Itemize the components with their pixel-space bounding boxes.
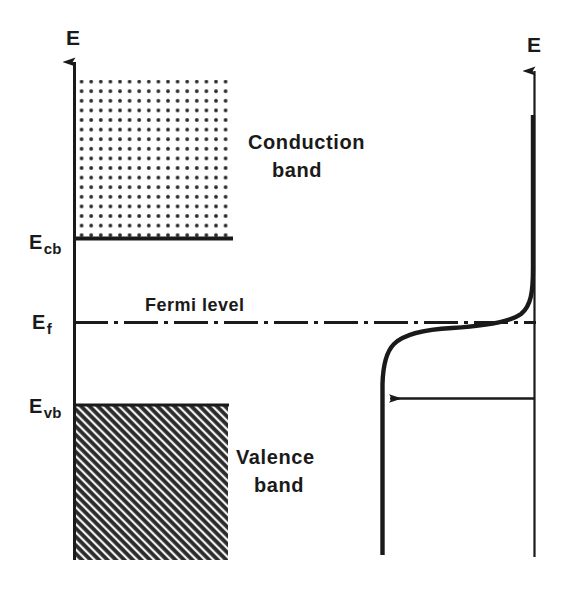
conduction-band-label-line2: band: [272, 160, 322, 181]
band-diagram-figure: E E Ecb Ef Evb Fermi level Conduction ba…: [0, 0, 563, 589]
fermi-level-edge-label: Ef: [32, 312, 51, 333]
ef-main: E: [32, 311, 46, 333]
right-axis-label-E: E: [527, 34, 541, 56]
valence-band-label-line1: Valence: [236, 447, 315, 468]
valence-band-label-line2: band: [254, 475, 304, 496]
ecb-sub: cb: [44, 240, 62, 257]
left-axis-label-E: E: [66, 27, 80, 49]
ecb-main: E: [29, 231, 43, 253]
ef-sub: f: [47, 320, 52, 337]
fermi-dirac-curve: [383, 115, 534, 555]
conduction-band-edge-label: Ecb: [29, 232, 61, 253]
fermi-level-annotation: Fermi level: [145, 296, 245, 315]
diagram-canvas: [0, 0, 563, 589]
evb-main: E: [29, 395, 43, 417]
conduction-band-label-line1: Conduction: [248, 132, 365, 153]
valence-band-fill: [75, 404, 228, 560]
valence-band-edge-label: Evb: [29, 396, 61, 417]
conduction-band-fill: [78, 80, 233, 238]
evb-sub: vb: [44, 404, 62, 421]
